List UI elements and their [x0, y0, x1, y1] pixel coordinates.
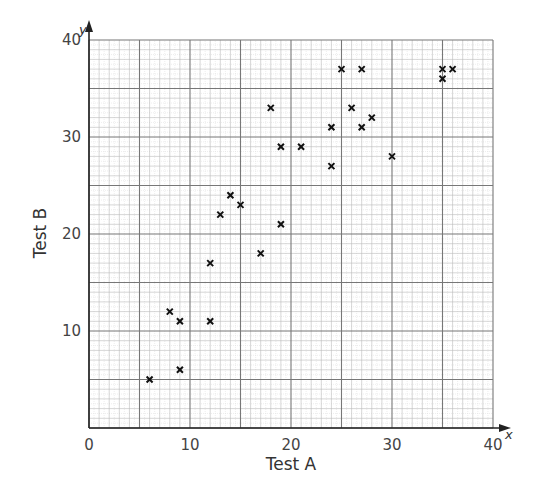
x-tick-label: 20 — [281, 436, 300, 454]
scatter-chart: 01020304010203040 Test A Test B x y — [0, 0, 546, 491]
y-axis-variable: y — [78, 22, 87, 37]
axes — [85, 20, 511, 432]
x-tick-label: 40 — [483, 436, 502, 454]
x-axis-label: Test A — [265, 454, 317, 474]
tick-labels: 01020304010203040 — [62, 31, 503, 454]
y-tick-label: 10 — [62, 322, 81, 340]
y-axis-label: Test B — [30, 208, 50, 260]
y-tick-label: 30 — [62, 128, 81, 146]
x-tick-label: 10 — [180, 436, 199, 454]
x-axis-variable: x — [504, 427, 513, 442]
x-tick-label: 30 — [382, 436, 401, 454]
x-tick-label: 0 — [84, 436, 94, 454]
y-tick-label: 20 — [62, 225, 81, 243]
